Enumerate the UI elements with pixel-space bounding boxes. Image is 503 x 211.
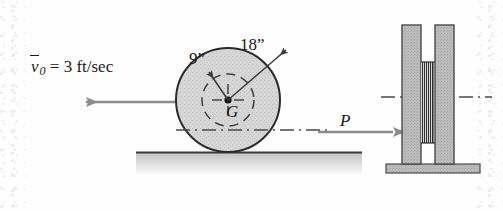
spool-base-plate: [386, 164, 480, 173]
mechanics-figure: v0 = 3 ft/sec 9” 18” G P: [0, 0, 503, 211]
center-of-mass-label: G: [226, 103, 238, 120]
velocity-symbol: v: [30, 57, 40, 76]
spool-end-view: [386, 25, 480, 173]
ground-surface: [136, 153, 362, 176]
force-label: P: [340, 112, 350, 129]
inner-radius-label: 9”: [189, 50, 205, 67]
spool-left-flange: [402, 25, 421, 164]
spool-right-flange: [435, 25, 454, 164]
velocity-label: v0 = 3 ft/sec: [30, 58, 113, 77]
figure-canvas: [0, 0, 503, 211]
velocity-equation: = 3 ft/sec: [46, 57, 114, 76]
spool-cord-winding: [421, 62, 435, 143]
outer-radius-label: 18”: [240, 36, 265, 53]
